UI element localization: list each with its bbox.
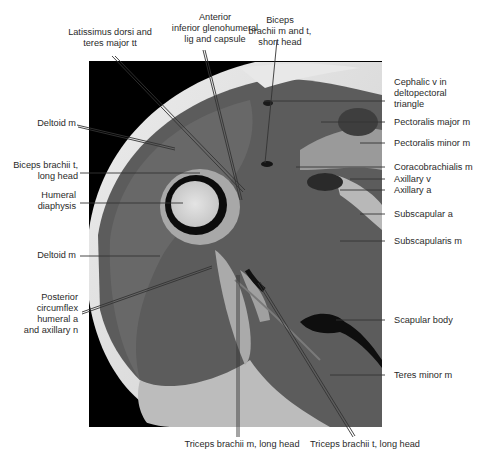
label-pectoralis-major: Pectoralis major m — [394, 117, 470, 128]
label-deltoid-lower: Deltoid m — [0, 250, 76, 261]
label-subscapularis: Subscapularis m — [394, 236, 462, 247]
label-biceps-long-head: Biceps brachii t, long head — [0, 160, 78, 182]
label-deltoid-upper: Deltoid m — [0, 118, 76, 129]
label-subscapular-artery: Subscapular a — [394, 209, 453, 220]
label-coracobrachialis: Coracobrachialis m — [394, 162, 473, 173]
label-triceps-muscle-long-head: Triceps brachii m, long head — [172, 439, 312, 450]
label-posterior-circumflex: Posterior circumflex humeral a and axill… — [0, 292, 78, 336]
label-teres-minor: Teres minor m — [394, 370, 452, 381]
label-axillary-vein: Axillary v — [394, 174, 431, 185]
label-triceps-tendon-long-head: Triceps brachii t, long head — [303, 439, 427, 450]
label-axillary-artery: Axillary a — [394, 185, 431, 196]
mri-image — [0, 0, 484, 451]
anatomy-figure: Latissimus dorsi and teres major tt Ante… — [0, 0, 484, 451]
label-pectoralis-minor: Pectoralis minor m — [394, 138, 470, 149]
label-scapular-body: Scapular body — [394, 315, 453, 326]
label-biceps-short-head: Biceps brachii m and t, short head — [245, 15, 315, 48]
label-humeral-diaphysis: Humeral diaphysis — [0, 190, 76, 212]
label-cephalic-vein: Cephalic v in deltopectoral triangle — [394, 77, 447, 110]
